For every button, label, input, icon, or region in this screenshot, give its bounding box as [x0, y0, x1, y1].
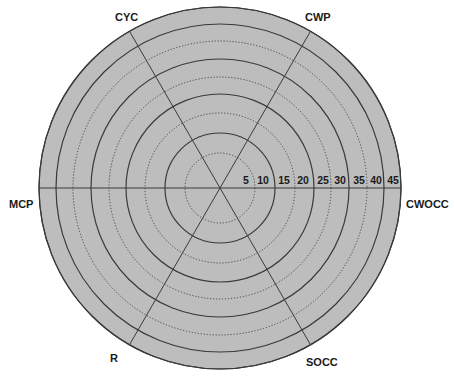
tick-label-35: 35 — [353, 174, 365, 186]
axis-label-cwp: CWP — [305, 11, 331, 23]
tick-label-5: 5 — [243, 174, 249, 186]
axis-label-mcp: MCP — [9, 198, 33, 210]
tick-label-30: 30 — [334, 174, 346, 186]
axis-label-r: R — [110, 352, 118, 364]
tick-label-10: 10 — [257, 174, 269, 186]
axis-label-socc: SOCC — [306, 356, 338, 368]
tick-label-25: 25 — [317, 174, 329, 186]
radar-tick-labels: 51015202530354045 — [243, 174, 399, 186]
tick-label-40: 40 — [370, 174, 382, 186]
axis-label-cwocc: CWOCC — [406, 198, 449, 210]
radar-chart: 51015202530354045 — [0, 0, 454, 385]
axis-label-cyc: CYC — [115, 11, 138, 23]
tick-label-15: 15 — [278, 174, 290, 186]
tick-label-45: 45 — [387, 174, 399, 186]
tick-label-20: 20 — [297, 174, 309, 186]
